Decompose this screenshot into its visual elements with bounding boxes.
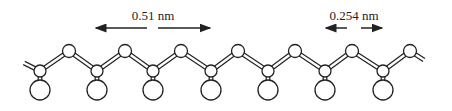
backbone-atom <box>232 45 245 58</box>
backbone-atom <box>147 65 159 77</box>
backbone-atom <box>289 45 302 58</box>
backbone-atom <box>91 65 103 77</box>
side-group-atom <box>87 80 107 100</box>
backbone-atom <box>346 45 359 58</box>
side-group-atom <box>143 80 163 100</box>
polymer-backbone <box>23 45 425 101</box>
side-group-atom <box>258 80 278 100</box>
polymer-chain-diagram: 0.51 nm 0.254 nm <box>0 0 452 111</box>
backbone-atom <box>377 65 389 77</box>
backbone-atom <box>262 65 274 77</box>
backbone-atom <box>319 65 331 77</box>
backbone-atom <box>34 65 46 77</box>
side-group-atom <box>373 80 393 100</box>
side-group-atom <box>201 80 221 100</box>
side-group-atom <box>30 80 50 100</box>
backbone-atom <box>205 65 217 77</box>
side-group-atom <box>315 80 335 100</box>
backbone-atom <box>175 45 188 58</box>
backbone-atom <box>404 45 417 58</box>
repeat-distance-label: 0.51 nm <box>132 8 175 23</box>
backbone-atom <box>63 45 76 58</box>
bond-projection-label: 0.254 nm <box>329 8 378 23</box>
backbone-atom <box>119 45 132 58</box>
